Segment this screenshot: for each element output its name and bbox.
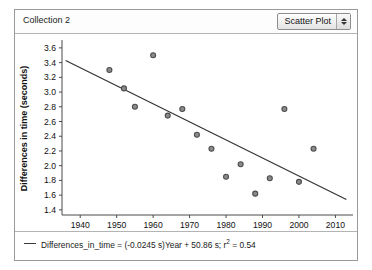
x-tick-label: 1970 (180, 220, 199, 230)
y-tick-label: 2.8 (44, 102, 56, 112)
legend-bar: Differences_in_time = (-0.0245 s)Year + … (15, 231, 357, 260)
regression-equation-label: Differences_in_time = (-0.0245 s)Year + … (41, 238, 256, 250)
data-point-group[interactable] (107, 53, 316, 196)
x-tick-label: 1940 (71, 220, 90, 230)
data-point[interactable] (180, 106, 185, 111)
legend-row[interactable]: Differences_in_time = (-0.0245 s)Year + … (24, 238, 256, 250)
y-tick-label: 3.2 (44, 72, 56, 82)
scatter-plot-window: Collection 2 Scatter Plot 1.41.61.82.02.… (14, 9, 358, 261)
x-tick-label: 1950 (107, 220, 126, 230)
data-point[interactable] (107, 67, 112, 72)
y-tick-label: 1.8 (44, 175, 56, 185)
equation-main: Differences_in_time = (-0.0245 s)Year + … (41, 240, 226, 250)
x-tick-label: 2000 (289, 220, 308, 230)
window-title-bar: Collection 2 Scatter Plot (15, 10, 357, 34)
x-tick-label: 2010 (326, 220, 345, 230)
data-point[interactable] (238, 162, 243, 167)
data-point[interactable] (194, 132, 199, 137)
line-swatch-icon (24, 243, 36, 244)
data-point[interactable] (151, 53, 156, 58)
scatter-plot-canvas[interactable]: 1.41.61.82.02.22.42.62.83.03.23.43.6 194… (15, 34, 357, 232)
triangle-down-icon[interactable] (341, 22, 347, 25)
plot-type-label: Scatter Plot (278, 14, 336, 29)
equation-tail: = 0.54 (230, 240, 256, 250)
y-tick-label: 2.0 (44, 161, 56, 171)
x-tick-label: 1980 (216, 220, 235, 230)
data-point[interactable] (132, 104, 137, 109)
data-point[interactable] (209, 146, 214, 151)
plot-region: 1.41.61.82.02.22.42.62.83.03.23.43.6 194… (15, 34, 357, 232)
stepper-icon[interactable] (336, 14, 350, 29)
y-axis-title: Differences in time (seconds) (19, 66, 29, 192)
y-tick-label: 3.6 (44, 43, 56, 53)
data-point[interactable] (165, 113, 170, 118)
y-tick-label: 2.6 (44, 117, 56, 127)
data-point[interactable] (253, 191, 258, 196)
collection-title: Collection 2 (23, 15, 70, 25)
y-tick-label: 3.4 (44, 58, 56, 68)
y-tick-label: 2.2 (44, 146, 56, 156)
data-point[interactable] (296, 179, 301, 184)
y-tick-label: 1.6 (44, 190, 56, 200)
x-tick-label: 1990 (253, 220, 272, 230)
y-tick-label: 1.4 (44, 205, 56, 215)
data-point[interactable] (267, 176, 272, 181)
y-tick-label: 2.4 (44, 131, 56, 141)
y-tick-label: 3.0 (44, 87, 56, 97)
x-axis-tick-labels: 19401950196019701980199020002010 (71, 220, 346, 230)
data-point[interactable] (311, 146, 316, 151)
triangle-up-icon[interactable] (341, 18, 347, 21)
data-point[interactable] (121, 86, 126, 91)
y-axis-tick-labels: 1.41.61.82.02.22.42.62.83.03.23.43.6 (44, 43, 56, 215)
data-point[interactable] (224, 174, 229, 179)
data-point[interactable] (282, 106, 287, 111)
regression-line (66, 61, 347, 200)
x-tick-label: 1960 (144, 220, 163, 230)
plot-type-dropdown[interactable]: Scatter Plot (277, 13, 351, 30)
